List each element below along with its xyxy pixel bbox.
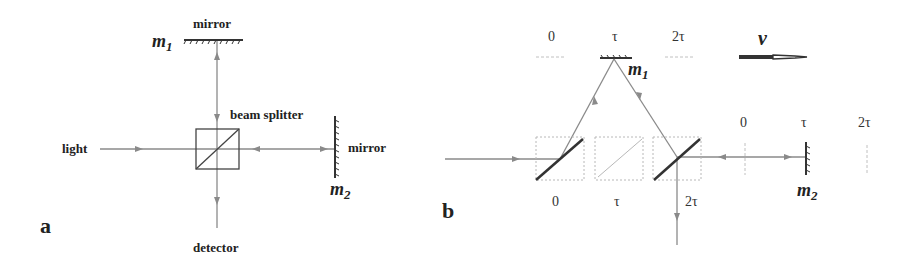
label-beam-splitter: beam splitter — [230, 108, 303, 121]
beam-up-b — [560, 59, 614, 159]
bottom-time-2: 2τ — [685, 195, 698, 209]
diagram-canvas — [0, 0, 917, 268]
label-light: light — [62, 142, 87, 155]
m1-sub: 1 — [166, 39, 173, 54]
m2-text: m — [330, 179, 344, 199]
m2-b-sub: 2 — [811, 188, 818, 203]
label-m1-b: m1 — [628, 60, 649, 81]
panel-label-b: b — [442, 200, 454, 222]
top-time-1: τ — [612, 30, 618, 44]
m1-text: m — [152, 31, 166, 51]
bottom-time-0: 0 — [552, 195, 559, 209]
velocity-label: v — [758, 28, 767, 48]
label-m2-a: m2 — [330, 180, 351, 201]
top-time-2: 2τ — [672, 30, 685, 44]
m2-sub: 2 — [344, 187, 351, 202]
bottom-time-1: τ — [614, 195, 620, 209]
label-m1-a: m1 — [152, 32, 173, 53]
right-time-2: 2τ — [858, 116, 871, 130]
m1-b-text: m — [628, 59, 642, 79]
right-time-1: τ — [801, 116, 807, 130]
label-detector: detector — [193, 241, 238, 254]
label-mirror-right: mirror — [348, 141, 386, 154]
m2-b-text: m — [797, 180, 811, 200]
m1-b-sub: 1 — [642, 67, 649, 82]
label-m2-b: m2 — [797, 181, 818, 202]
panel-label-a: a — [40, 215, 51, 237]
panel-b-diagram — [445, 55, 867, 245]
right-time-0: 0 — [740, 116, 747, 130]
top-time-0: 0 — [548, 30, 555, 44]
panel-a-diagram — [100, 40, 339, 228]
label-mirror-top: mirror — [193, 17, 231, 30]
